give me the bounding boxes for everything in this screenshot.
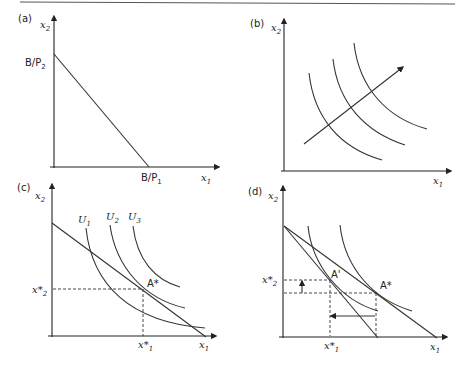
panel-a: (a) x2 B/P2 B/P1 x1 [18,13,219,186]
x-axis-label: x1 [201,172,211,186]
indifference-curve-u1 [86,228,205,328]
original-budget-line [284,226,437,338]
indifference-curve-2 [333,59,405,145]
x-axis-label: x1 [199,339,209,353]
x-intercept-label: B/P1 [141,172,162,186]
curve-label-u1: U1 [78,214,91,228]
old-optimum-label: A* [380,280,392,291]
budget-line [52,223,206,337]
x1-star-label: x*1 [138,339,153,353]
panel-label-a: (a) [18,13,32,24]
panel-label-c: (c) [17,182,30,193]
panel-d: (d) x2 A' A* x*2 x*1 x1 [248,186,447,355]
indifference-curve-1 [309,73,382,160]
panel-c: (c) x2 U1 U2 U3 A* x*2 x*1 x1 [17,182,216,353]
panel-label-d: (d) [248,186,262,197]
y-axis-label: x2 [35,190,46,204]
x-axis-label: x1 [430,341,440,355]
indifference-curve-u2 [110,225,185,308]
panel-b: (b) x2 x1 [250,18,451,189]
budget-line [54,54,149,167]
y-axis-label: x2 [40,19,51,33]
panel-label-b: (b) [250,18,264,29]
x1-star-label: x*1 [324,340,339,354]
x2-star-label: x*2 [32,284,48,298]
curve-label-u3: U3 [128,211,141,225]
curve-label-u2: U2 [106,211,119,225]
x-axis-label: x1 [433,175,443,189]
x2-star-label: x*2 [262,274,278,288]
y-axis-label: x2 [271,22,282,36]
y-axis-label: x2 [268,190,279,204]
lower-indifference-curve [308,226,378,311]
y-intercept-label: B/P2 [25,57,46,71]
new-budget-line [284,226,378,338]
indifference-curve-3 [354,43,427,129]
top-rule [20,2,455,4]
new-optimum-label: A' [331,269,341,280]
increasing-utility-arrow [304,67,403,144]
optimum-label: A* [147,278,159,289]
consumer-choice-figure: (a) x2 B/P2 B/P1 x1 (b) x2 x1 (c) x2 U1 … [0,0,465,367]
